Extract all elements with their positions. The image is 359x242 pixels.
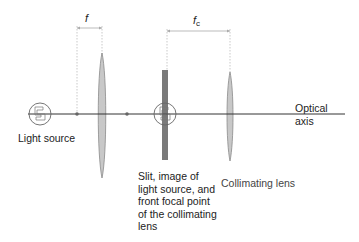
slit-label-line: of the collimating [138, 208, 228, 221]
slit-label-line: lens [138, 220, 228, 233]
slit-label-line: front focal point [138, 195, 228, 208]
optical-axis-label-line1: Optical [295, 102, 328, 115]
condenser-lens [98, 53, 106, 178]
back-focal-point-dot [125, 112, 129, 116]
focal-length-fc-dimension [167, 29, 230, 72]
slit-label-line: Slit, image of [138, 170, 228, 183]
optical-axis-label: Optical axis [295, 102, 328, 127]
front-focal-point-dot [75, 112, 79, 116]
collimating-lens [227, 72, 233, 161]
slit-label-line: light source, and [138, 183, 228, 196]
light-source-label: Light source [18, 132, 75, 145]
optical-axis-label-line2: axis [295, 115, 328, 128]
collimating-lens-label: Collimating lens [221, 177, 295, 190]
focal-length-f-label: f [85, 12, 88, 24]
slit-label: Slit, image of light source, and front f… [138, 170, 228, 233]
focal-length-fc-label: fc [193, 14, 200, 28]
